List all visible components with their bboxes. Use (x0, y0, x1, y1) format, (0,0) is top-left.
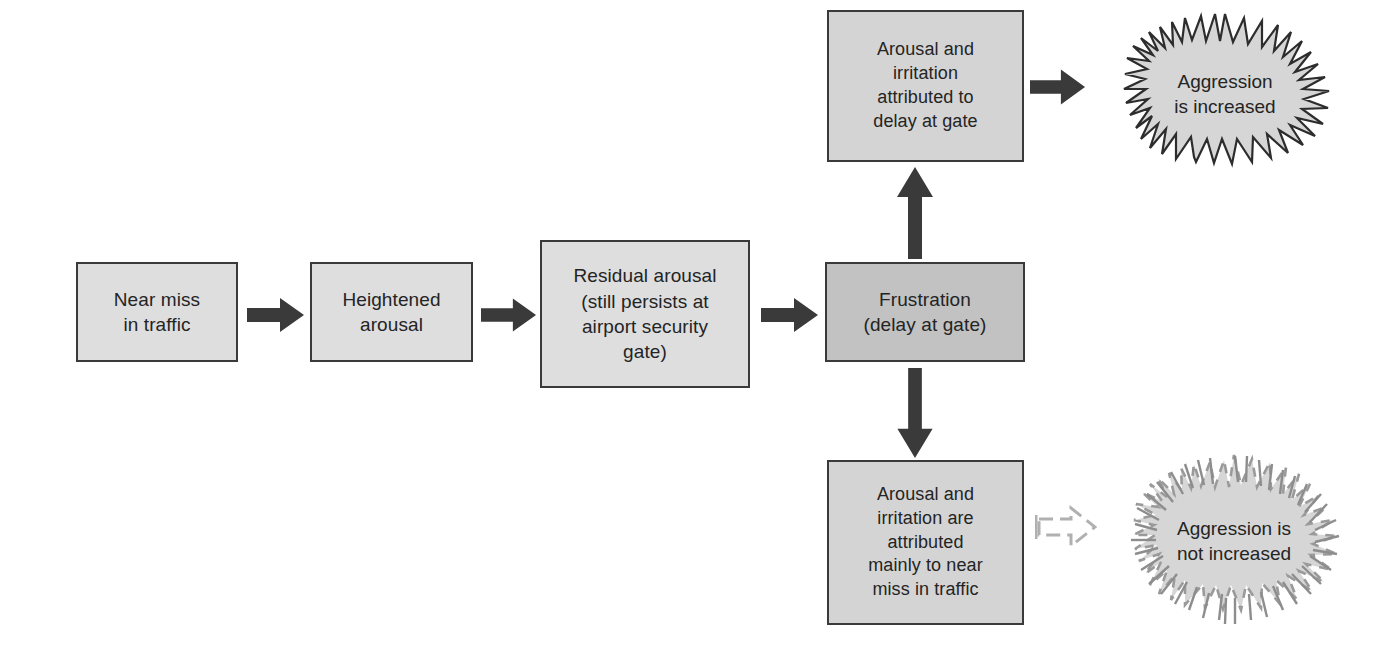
arrow-frustration-to-nearmiss-attrib (896, 367, 934, 459)
arrow-frustration-to-delay-attrib (896, 166, 934, 260)
flowchart-canvas: Near miss in traffic Heightened arousal … (0, 0, 1398, 655)
node-attributed-to-near-miss: Arousal and irritation are attributed ma… (827, 460, 1024, 625)
arrow-near-miss-to-heightened (247, 297, 305, 333)
outcome-aggression-not-increased-label: Aggression is not increased (1177, 516, 1291, 567)
arrow-nearmiss-attrib-to-no-aggression (1035, 505, 1097, 549)
node-near-miss: Near miss in traffic (76, 262, 238, 362)
node-frustration: Frustration (delay at gate) (825, 262, 1025, 362)
outcome-aggression-not-increased: Aggression is not increased (1089, 448, 1379, 634)
arrow-delay-attrib-to-aggression (1030, 68, 1086, 106)
outcome-aggression-increased: Aggression is increased (1079, 8, 1371, 180)
arrow-heightened-to-residual (481, 297, 537, 333)
node-residual-arousal: Residual arousal (still persists at airp… (540, 240, 750, 388)
arrow-residual-to-frustration (761, 297, 819, 333)
outcome-aggression-increased-label: Aggression is increased (1174, 69, 1275, 120)
node-heightened-arousal: Heightened arousal (310, 262, 473, 362)
node-attributed-to-delay: Arousal and irritation attributed to del… (827, 10, 1024, 162)
